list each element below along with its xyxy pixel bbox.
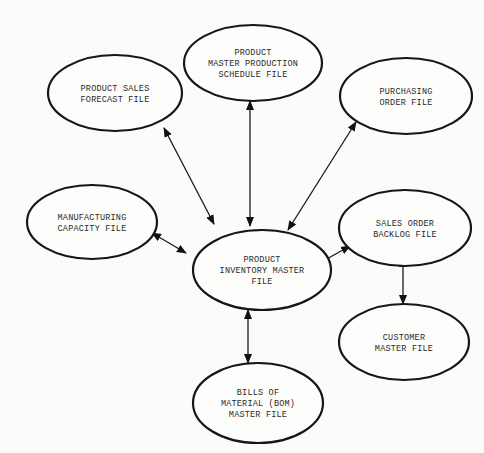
double-arrow-icon xyxy=(152,233,186,253)
node-layer: PRODUCT SALESFORECAST FILEPRODUCTMASTER … xyxy=(27,25,472,443)
file-relationship-diagram: PRODUCT SALESFORECAST FILEPRODUCTMASTER … xyxy=(0,0,484,453)
node-label: ORDER FILE xyxy=(379,98,432,108)
node-customer: CUSTOMERMASTER FILE xyxy=(339,304,469,380)
node-sales-backlog: SALES ORDERBACKLOG FILE xyxy=(339,190,471,266)
node-label: MASTER FILE xyxy=(375,344,433,354)
node-inventory: PRODUCTINVENTORY MASTERFILE xyxy=(193,230,331,310)
node-label: PRODUCT xyxy=(243,255,280,265)
node-label: PRODUCT xyxy=(234,48,271,58)
node-mfg-capacity: MANUFACTURINGCAPACITY FILE xyxy=(27,185,157,259)
node-label: BILLS OF xyxy=(237,388,279,398)
node-bom: BILLS OFMATERIAL (BOM)MASTER FILE xyxy=(193,363,323,443)
node-label: PRODUCT SALES xyxy=(81,84,150,94)
node-label: SCHEDULE FILE xyxy=(219,70,288,80)
node-purchasing: PURCHASINGORDER FILE xyxy=(340,58,472,134)
node-label: PURCHASING xyxy=(379,87,432,97)
node-label: FORECAST FILE xyxy=(81,95,150,105)
node-label: CAPACITY FILE xyxy=(58,224,127,234)
node-label: INVENTORY MASTER xyxy=(220,266,305,276)
node-sales-forecast: PRODUCT SALESFORECAST FILE xyxy=(48,55,182,131)
node-label: CUSTOMER xyxy=(383,333,425,343)
node-label: MATERIAL (BOM) xyxy=(221,399,295,409)
double-arrow-icon xyxy=(164,128,214,224)
node-label: FILE xyxy=(251,277,272,287)
node-mps: PRODUCTMASTER PRODUCTIONSCHEDULE FILE xyxy=(184,25,322,101)
node-label: SALES ORDER xyxy=(376,219,434,229)
node-label: MASTER FILE xyxy=(229,410,287,420)
node-label: BACKLOG FILE xyxy=(373,230,437,240)
node-label: MASTER PRODUCTION xyxy=(208,59,298,69)
node-label: MANUFACTURING xyxy=(58,213,127,223)
